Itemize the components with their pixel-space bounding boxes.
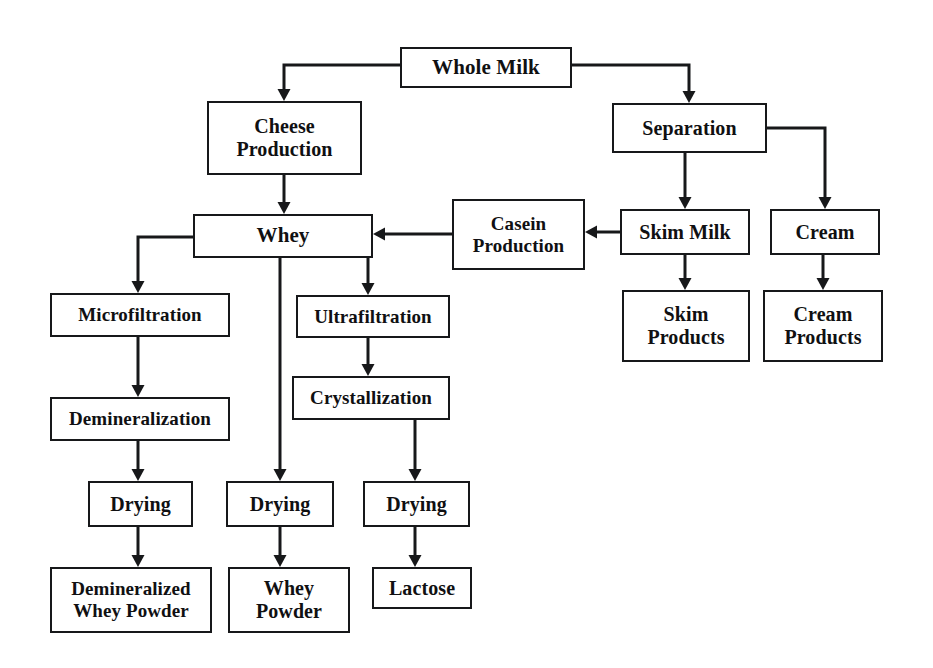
connector-drying_left-to-demineralized_powder	[132, 527, 145, 567]
node-label-separation: Separation	[638, 117, 740, 140]
node-skim_products: Skim Products	[622, 290, 750, 362]
node-crystallization: Crystallization	[292, 376, 450, 420]
arrowhead	[409, 469, 422, 481]
node-cheese_production: Cheese Production	[207, 101, 362, 175]
node-drying_right: Drying	[363, 481, 470, 527]
node-label-ultrafiltration: Ultrafiltration	[310, 306, 436, 328]
connector-skim_milk-to-skim_products	[679, 255, 692, 290]
node-casein_production: Casein Production	[452, 199, 585, 270]
connector-drying_middle-to-whey_powder	[274, 527, 287, 567]
node-label-casein_production: Casein Production	[469, 213, 568, 256]
node-demineralization: Demineralization	[50, 397, 230, 441]
connector-whey-to-microfiltration	[132, 237, 194, 293]
node-demineralized_powder: Demineralized Whey Powder	[50, 567, 212, 633]
arrowhead	[362, 283, 375, 295]
arrowhead	[274, 555, 287, 567]
node-lactose: Lactose	[372, 567, 472, 609]
connector-ultrafiltration-to-crystallization	[362, 338, 375, 376]
node-label-drying_right: Drying	[382, 493, 451, 516]
node-label-demineralized_powder: Demineralized Whey Powder	[67, 578, 194, 621]
connector-whole_milk-to-separation	[572, 65, 696, 103]
node-label-skim_milk: Skim Milk	[635, 221, 734, 244]
node-ultrafiltration: Ultrafiltration	[296, 295, 450, 338]
connector-demineralization-to-drying_left	[132, 441, 145, 481]
arrowhead	[274, 469, 287, 481]
node-label-cream: Cream	[792, 221, 859, 244]
arrowhead	[679, 278, 692, 290]
arrowhead	[819, 197, 832, 209]
arrowhead	[679, 197, 692, 209]
connector-separation-to-cream	[767, 128, 832, 209]
arrowhead	[132, 281, 145, 293]
node-label-microfiltration: Microfiltration	[74, 304, 206, 326]
arrowhead	[132, 469, 145, 481]
arrowhead	[817, 278, 830, 290]
connector-crystallization-to-drying_right	[409, 420, 422, 481]
connector-whey-to-drying_middle	[274, 258, 287, 481]
node-separation: Separation	[612, 103, 767, 153]
arrowhead	[362, 364, 375, 376]
flowchart-canvas: Whole MilkCheese ProductionSeparationWhe…	[0, 0, 933, 668]
arrowhead	[132, 385, 145, 397]
node-label-lactose: Lactose	[385, 577, 459, 600]
arrowhead	[278, 202, 291, 214]
connector-cream-to-cream_products	[817, 255, 830, 290]
node-whey: Whey	[193, 214, 373, 258]
connector-separation-to-skim_milk	[679, 153, 692, 209]
arrowhead	[683, 91, 696, 103]
connector-casein_production-to-whey	[373, 228, 452, 241]
node-label-crystallization: Crystallization	[306, 387, 436, 409]
node-cream: Cream	[770, 209, 880, 255]
node-drying_middle: Drying	[226, 481, 334, 527]
node-label-skim_products: Skim Products	[643, 303, 728, 349]
node-cream_products: Cream Products	[763, 290, 883, 362]
connector-cheese_production-to-whey	[278, 175, 291, 214]
connector-drying_right-to-lactose	[409, 527, 422, 567]
arrowhead	[409, 555, 422, 567]
arrowhead	[278, 89, 291, 101]
connector-microfiltration-to-demineralization	[132, 337, 145, 397]
node-label-drying_left: Drying	[106, 493, 175, 516]
node-skim_milk: Skim Milk	[620, 209, 750, 255]
node-label-whole_milk: Whole Milk	[428, 56, 544, 80]
node-label-whey_powder: Whey Powder	[252, 577, 326, 623]
arrowhead	[132, 555, 145, 567]
node-whey_powder: Whey Powder	[228, 567, 350, 633]
arrowhead	[373, 228, 385, 241]
connector-whole_milk-to-cheese_production	[278, 65, 401, 101]
arrowhead	[585, 226, 597, 239]
connector-whey-to-ultrafiltration	[362, 258, 375, 295]
node-label-cheese_production: Cheese Production	[232, 115, 336, 161]
node-label-drying_middle: Drying	[246, 493, 315, 516]
node-label-demineralization: Demineralization	[65, 408, 215, 430]
node-whole_milk: Whole Milk	[400, 47, 572, 88]
node-label-whey: Whey	[253, 224, 314, 248]
node-label-cream_products: Cream Products	[780, 303, 865, 349]
connector-skim_milk-to-casein_production	[585, 226, 620, 239]
node-drying_left: Drying	[88, 481, 193, 527]
node-microfiltration: Microfiltration	[50, 293, 230, 337]
